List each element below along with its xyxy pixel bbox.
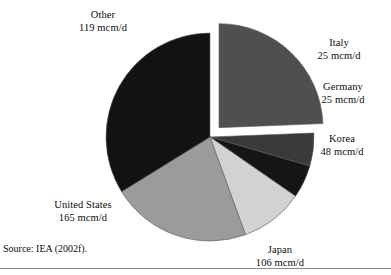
source-note: Source: IEA (2002f).	[3, 243, 87, 255]
pie-label-united-states: United States 165 mcm/d	[28, 199, 138, 224]
pie-label-korea-name: Korea	[302, 133, 382, 146]
pie-label-italy: Italy 25 mcm/d	[300, 37, 378, 62]
pie-label-other-value: 119 mcm/d	[48, 22, 158, 35]
pie-label-other: Other 119 mcm/d	[48, 9, 158, 34]
pie-chart-figure: Other 119 mcm/d Italy 25 mcm/d Germany 2…	[0, 0, 391, 275]
pie-label-korea: Korea 48 mcm/d	[302, 133, 382, 158]
pie-label-italy-name: Italy	[300, 37, 378, 50]
pie-label-japan-name: Japan	[236, 244, 324, 257]
figure-bottom-rule	[0, 268, 391, 269]
pie-label-japan: Japan 106 mcm/d	[236, 244, 324, 269]
pie-label-germany: Germany 25 mcm/d	[300, 81, 386, 106]
pie-label-italy-value: 25 mcm/d	[300, 50, 378, 63]
pie-label-other-name: Other	[48, 9, 158, 22]
pie-label-korea-value: 48 mcm/d	[302, 146, 382, 159]
pie-label-germany-value: 25 mcm/d	[300, 94, 386, 107]
pie-label-united-states-name: United States	[28, 199, 138, 212]
pie-slice-group	[106, 24, 323, 241]
pie-label-united-states-value: 165 mcm/d	[28, 212, 138, 225]
pie-label-germany-name: Germany	[300, 81, 386, 94]
